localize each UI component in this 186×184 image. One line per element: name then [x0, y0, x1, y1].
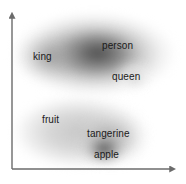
embedding-cluster-figure: king person queen fruit tangerine apple — [0, 0, 186, 184]
cluster-label-tangerine: tangerine — [87, 129, 130, 139]
cluster-label-person: person — [102, 41, 133, 51]
axes — [0, 0, 186, 184]
cluster-label-queen: queen — [112, 72, 140, 82]
cluster-label-king: king — [33, 52, 52, 62]
cluster-label-fruit: fruit — [42, 115, 59, 125]
cluster-label-apple: apple — [94, 150, 119, 160]
